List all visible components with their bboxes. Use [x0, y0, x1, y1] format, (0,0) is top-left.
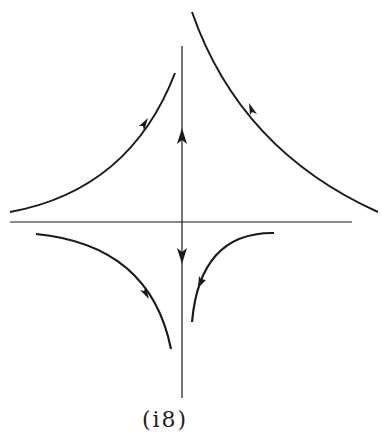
- lower-right-trajectory: [192, 233, 274, 322]
- arrow-up-right-icon: [139, 118, 148, 131]
- lower-left-trajectory: [36, 234, 171, 349]
- upper-left-trajectory: [10, 73, 175, 212]
- figure-caption: (i8): [142, 409, 188, 431]
- arrow-up-left-icon: [249, 103, 257, 115]
- upper-right-trajectory: [192, 12, 378, 212]
